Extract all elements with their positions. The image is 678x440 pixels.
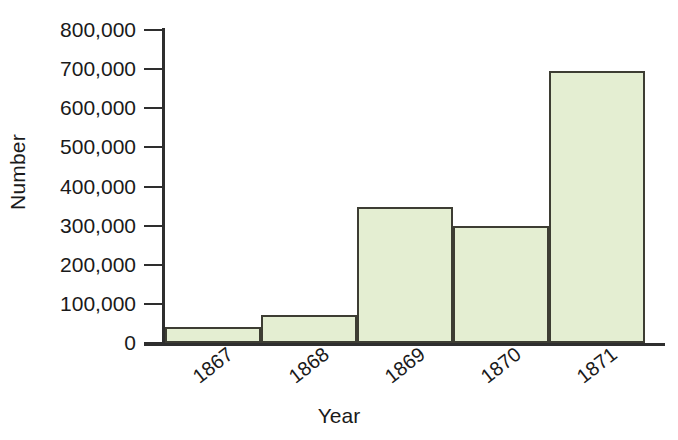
y-axis-tick-mark xyxy=(144,29,163,31)
bar-series-group xyxy=(165,28,665,346)
y-axis-tick-mark xyxy=(144,186,163,188)
y-axis-tick-label: 500,000 xyxy=(18,136,136,157)
y-axis-tick-label: 0 xyxy=(18,332,136,353)
y-axis-tick-mark xyxy=(144,107,163,109)
bar-1871 xyxy=(549,71,645,343)
x-axis-tick-label-group: 18671868186918701871 xyxy=(144,346,665,406)
y-axis-tick-label: 400,000 xyxy=(18,176,136,197)
y-axis-tick-mark xyxy=(144,225,163,227)
y-axis-tick-label: 100,000 xyxy=(18,293,136,314)
y-axis-tick-label: 700,000 xyxy=(18,58,136,79)
bar-1870 xyxy=(453,226,549,343)
y-axis-tick-label: 800,000 xyxy=(18,19,136,40)
x-axis-title: Year xyxy=(0,404,678,428)
bar-chart-figure: Number 0100,000200,000300,000400,000500,… xyxy=(0,0,678,440)
y-axis-tick-mark xyxy=(144,342,163,344)
y-axis-tick-mark xyxy=(144,264,163,266)
y-axis-tick-label: 200,000 xyxy=(18,254,136,275)
y-axis-tick-mark xyxy=(144,68,163,70)
bar-1869 xyxy=(357,207,453,343)
y-axis-tick-label: 300,000 xyxy=(18,215,136,236)
y-axis-tick-label: 600,000 xyxy=(18,97,136,118)
y-axis-tick-mark xyxy=(144,303,163,305)
y-axis-tick-mark xyxy=(144,146,163,148)
plot-area xyxy=(144,28,665,346)
y-axis-tick-label-group: 0100,000200,000300,000400,000500,000600,… xyxy=(18,0,136,440)
